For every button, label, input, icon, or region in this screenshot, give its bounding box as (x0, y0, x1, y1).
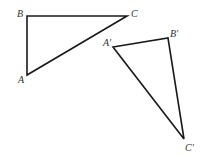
vertex-label-b: B (17, 8, 23, 19)
vertex-label-c: C (131, 8, 138, 19)
vertex-label-b-prime: B′ (170, 28, 179, 39)
vertex-label-a: A (17, 74, 25, 85)
triangle-a-prime-b-prime-c-prime (113, 38, 184, 139)
triangle-abc (27, 16, 127, 75)
vertex-label-a-prime: A′ (102, 37, 112, 48)
congruent-triangles-diagram: A B C A′ B′ C′ (0, 0, 201, 155)
vertex-label-c-prime: C′ (185, 142, 195, 153)
